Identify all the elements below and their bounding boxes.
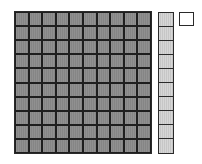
flat-cell: [97, 68, 111, 82]
flat-cell: [110, 68, 124, 82]
flat-cell: [56, 68, 70, 82]
rod-cell: [159, 139, 173, 153]
flat-cell: [69, 139, 83, 153]
flat-cell: [124, 26, 138, 40]
flat-cell: [29, 12, 43, 26]
flat-cell: [137, 54, 151, 68]
rod-cell: [159, 41, 173, 55]
flat-cell: [137, 111, 151, 125]
flat-cell: [69, 40, 83, 54]
flat-cell: [83, 125, 97, 139]
flat-cell: [83, 83, 97, 97]
flat-cell: [15, 97, 29, 111]
rod-cell: [159, 125, 173, 139]
flat-cell: [97, 54, 111, 68]
flat-cell: [83, 139, 97, 153]
flat-cell: [42, 26, 56, 40]
flat-cell: [69, 68, 83, 82]
flat-cell: [69, 97, 83, 111]
flat-cell: [124, 111, 138, 125]
rod-cell: [159, 83, 173, 97]
flat-cell: [97, 139, 111, 153]
flat-cell: [83, 12, 97, 26]
flat-cell: [97, 26, 111, 40]
flat-cell: [56, 54, 70, 68]
flat-cell: [137, 83, 151, 97]
flat-cell: [137, 12, 151, 26]
flat-cell: [29, 26, 43, 40]
flat-cell: [29, 125, 43, 139]
flat-cell: [137, 139, 151, 153]
flat-cell: [97, 125, 111, 139]
flat-cell: [42, 68, 56, 82]
flat-cell: [110, 125, 124, 139]
rod-cell: [159, 97, 173, 111]
flat-cell: [56, 125, 70, 139]
flat-cell: [15, 12, 29, 26]
hundred-flat-block: [14, 11, 152, 154]
flat-cell: [124, 54, 138, 68]
flat-cell: [69, 12, 83, 26]
flat-cell: [29, 83, 43, 97]
flat-cell: [110, 97, 124, 111]
flat-cell: [42, 40, 56, 54]
flat-cell: [110, 26, 124, 40]
flat-cell: [15, 83, 29, 97]
flat-cell: [69, 111, 83, 125]
flat-cell: [29, 54, 43, 68]
flat-cell: [124, 139, 138, 153]
flat-cell: [42, 125, 56, 139]
rod-cell: [159, 69, 173, 83]
flat-cell: [42, 12, 56, 26]
flat-cell: [97, 12, 111, 26]
flat-cell: [110, 54, 124, 68]
flat-cell: [124, 83, 138, 97]
flat-cell: [42, 97, 56, 111]
flat-cell: [29, 139, 43, 153]
rod-cell: [159, 55, 173, 69]
flat-cell: [83, 54, 97, 68]
flat-cell: [56, 12, 70, 26]
flat-cell: [110, 111, 124, 125]
flat-cell: [42, 83, 56, 97]
flat-cell: [29, 97, 43, 111]
flat-cell: [69, 26, 83, 40]
flat-cell: [15, 26, 29, 40]
ten-rod-block: [158, 12, 174, 154]
flat-cell: [83, 68, 97, 82]
rod-cell: [159, 27, 173, 41]
flat-cell: [137, 125, 151, 139]
flat-cell: [15, 54, 29, 68]
flat-cell: [137, 40, 151, 54]
flat-cell: [124, 12, 138, 26]
flat-cell: [137, 68, 151, 82]
flat-cell: [97, 40, 111, 54]
flat-cell: [69, 125, 83, 139]
flat-cell: [56, 111, 70, 125]
flat-cell: [137, 97, 151, 111]
flat-cell: [110, 12, 124, 26]
flat-cell: [83, 40, 97, 54]
flat-cell: [42, 54, 56, 68]
flat-cell: [56, 40, 70, 54]
flat-cell: [29, 40, 43, 54]
flat-cell: [42, 139, 56, 153]
flat-cell: [110, 40, 124, 54]
flat-cell: [110, 83, 124, 97]
flat-cell: [15, 111, 29, 125]
flat-cell: [97, 97, 111, 111]
rod-cell: [159, 13, 173, 27]
flat-cell: [137, 26, 151, 40]
flat-cell: [69, 54, 83, 68]
flat-cell: [97, 83, 111, 97]
flat-cell: [56, 83, 70, 97]
flat-cell: [124, 68, 138, 82]
rod-cell: [159, 111, 173, 125]
flat-cell: [110, 139, 124, 153]
flat-cell: [69, 83, 83, 97]
flat-cell: [29, 111, 43, 125]
flat-cell: [83, 97, 97, 111]
flat-cell: [56, 139, 70, 153]
flat-cell: [15, 40, 29, 54]
flat-cell: [29, 68, 43, 82]
